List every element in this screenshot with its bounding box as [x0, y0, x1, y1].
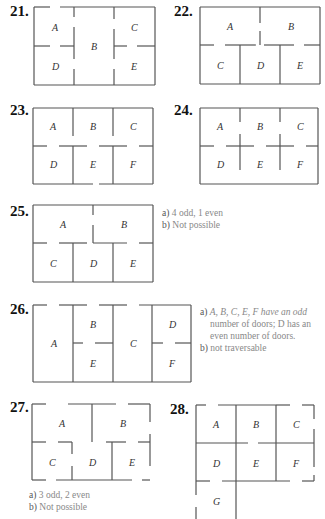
room-label: C: [131, 22, 138, 33]
svg-text:E: E: [296, 60, 303, 71]
svg-text:B: B: [90, 319, 96, 330]
svg-text:A: A: [59, 219, 67, 230]
svg-text:C: C: [49, 457, 56, 468]
problem-number-26: 26.: [10, 301, 29, 318]
problem-number-22: 22.: [174, 3, 193, 20]
svg-text:D: D: [49, 159, 58, 170]
svg-text:E: E: [129, 258, 136, 269]
problem-number-25: 25.: [10, 203, 29, 220]
svg-text:A: A: [216, 121, 224, 132]
svg-text:F: F: [168, 358, 176, 369]
room-label: D: [51, 61, 60, 72]
problem-number-24: 24.: [174, 102, 193, 119]
svg-text:B: B: [257, 121, 263, 132]
svg-text:D: D: [216, 159, 225, 170]
answer-25: a) 4 odd, 1 even b) Not possible: [162, 207, 223, 231]
svg-text:A: A: [50, 338, 58, 349]
svg-text:D: D: [256, 60, 265, 71]
svg-text:E: E: [252, 458, 259, 469]
svg-text:C: C: [130, 338, 137, 349]
svg-text:F: F: [129, 159, 137, 170]
svg-text:B: B: [120, 418, 126, 429]
svg-text:E: E: [89, 358, 96, 369]
answer-26: a) A, B, C, E, F have an odd number of d…: [200, 306, 311, 354]
svg-text:F: F: [296, 159, 304, 170]
svg-text:D: D: [89, 258, 98, 269]
svg-text:A: A: [226, 21, 234, 32]
problem-number-23: 23.: [10, 102, 29, 119]
svg-text:B: B: [121, 219, 127, 230]
svg-text:D: D: [212, 458, 221, 469]
svg-text:F: F: [292, 458, 300, 469]
floor-plan-22: A B C D E: [200, 7, 322, 87]
floor-plan-25: A B C D E: [33, 205, 155, 285]
svg-text:C: C: [217, 60, 224, 71]
svg-text:A: A: [212, 419, 220, 430]
svg-text:C: C: [130, 121, 137, 132]
problem-number-27: 27.: [10, 399, 29, 416]
svg-text:B: B: [253, 419, 259, 430]
svg-text:C: C: [297, 121, 304, 132]
room-label: E: [130, 61, 137, 72]
svg-text:C: C: [293, 419, 300, 430]
svg-text:A: A: [58, 418, 66, 429]
svg-text:G: G: [213, 496, 220, 507]
problem-number-28: 28.: [170, 401, 189, 418]
floor-plan-24: A B C D E F: [200, 108, 322, 188]
svg-text:D: D: [88, 457, 97, 468]
svg-text:E: E: [256, 159, 263, 170]
answer-27: a) 3 odd, 2 even b) Not possible: [29, 489, 90, 513]
floor-plan-28: A B C D E F G: [196, 405, 320, 519]
svg-text:E: E: [89, 159, 96, 170]
room-label: B: [91, 41, 97, 52]
svg-text:C: C: [50, 258, 57, 269]
floor-plan-21: A B C D E: [34, 7, 156, 87]
svg-text:D: D: [168, 319, 177, 330]
floor-plan-23: A B C D E F: [33, 108, 155, 188]
svg-text:A: A: [49, 121, 57, 132]
svg-text:B: B: [90, 121, 96, 132]
room-label: A: [51, 22, 59, 33]
floor-plan-26: A B C D E F: [33, 305, 193, 385]
problem-number-21: 21.: [10, 3, 29, 20]
floor-plan-27: A B C D E: [32, 404, 154, 484]
svg-text:B: B: [288, 21, 294, 32]
svg-text:E: E: [128, 457, 135, 468]
